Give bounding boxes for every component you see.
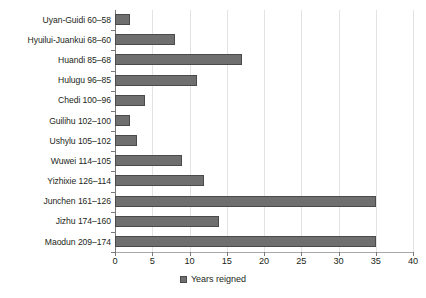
x-axis-tick-label: 0	[112, 257, 117, 266]
bar	[115, 175, 204, 186]
legend-swatch-icon	[180, 276, 187, 283]
bar-row	[115, 71, 413, 91]
y-axis-tick-label: Yizhixie 126–114	[0, 171, 111, 191]
legend-label: Years reigned	[191, 275, 246, 284]
bar	[115, 95, 145, 106]
bar	[115, 115, 130, 126]
bar	[115, 14, 130, 25]
bar-row	[115, 111, 413, 131]
x-axis-tick-label: 40	[408, 257, 418, 266]
y-axis-tick-label: Chedi 100–96	[0, 91, 111, 111]
x-axis-tick-label: 20	[259, 257, 269, 266]
bar	[115, 54, 242, 65]
x-axis-tick-labels: 0510152025303540	[0, 257, 426, 271]
x-axis-tick-label: 35	[371, 257, 381, 266]
bar	[115, 135, 137, 146]
bar-row	[115, 10, 413, 30]
gridline-40	[413, 10, 414, 252]
y-axis-tick-label: Wuwei 114–105	[0, 151, 111, 171]
bar	[115, 34, 175, 45]
x-axis-tick-label: 5	[150, 257, 155, 266]
plot-area	[115, 10, 413, 252]
y-axis-tick-label: Huandi 85–68	[0, 50, 111, 70]
x-axis-tick-label: 25	[296, 257, 306, 266]
bar	[115, 75, 197, 86]
bar-row	[115, 212, 413, 232]
bar-row	[115, 131, 413, 151]
bar	[115, 216, 219, 227]
bar-rows	[115, 10, 413, 252]
bar-row	[115, 232, 413, 252]
y-axis-category-labels: Uyan-Guidi 60–58Hyuilui-Juankui 68–60Hua…	[0, 10, 111, 252]
y-axis-tick-label: Hyuilui-Juankui 68–60	[0, 30, 111, 50]
bar-row	[115, 151, 413, 171]
bar	[115, 155, 182, 166]
bar-row	[115, 50, 413, 70]
bar	[115, 196, 376, 207]
y-axis-tick-label: Guilihu 102–100	[0, 111, 111, 131]
y-axis-tick-label: Jizhu 174–160	[0, 212, 111, 232]
y-axis-tick-label: Junchen 161–126	[0, 192, 111, 212]
y-axis-tick-label: Uyan-Guidi 60–58	[0, 10, 111, 30]
bar-row	[115, 192, 413, 212]
bar	[115, 236, 376, 247]
bar-row	[115, 30, 413, 50]
bar-chart: Uyan-Guidi 60–58Hyuilui-Juankui 68–60Hua…	[0, 0, 426, 298]
x-axis-tick-label: 10	[184, 257, 194, 266]
y-axis-tick-label: Ushylu 105–102	[0, 131, 111, 151]
bar-row	[115, 171, 413, 191]
y-axis-tick-label: Maodun 209–174	[0, 232, 111, 252]
x-axis-tick-label: 30	[333, 257, 343, 266]
bar-row	[115, 91, 413, 111]
x-axis-tick-label: 15	[222, 257, 232, 266]
y-axis-tick-label: Hulugu 96–85	[0, 71, 111, 91]
chart-legend: Years reigned	[0, 275, 426, 284]
